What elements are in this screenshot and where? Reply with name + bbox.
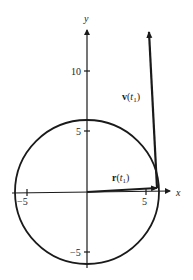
x-tick-label-5: 5 [142, 196, 147, 207]
x-axis-label: x [175, 187, 181, 198]
position-vector-label: r(t1) [112, 172, 129, 185]
x-tick-label-neg5: −5 [17, 196, 28, 207]
velocity-vector-label: v(t1) [122, 91, 140, 104]
y-axis-label: y [83, 13, 89, 24]
y-tick-label-neg5: −5 [70, 247, 81, 258]
circular-motion-diagram: x y −5 5 10 5 −5 r(t1) v(t1) [0, 0, 193, 280]
y-tick-label-10: 10 [71, 66, 81, 77]
y-tick-label-5: 5 [76, 126, 81, 137]
